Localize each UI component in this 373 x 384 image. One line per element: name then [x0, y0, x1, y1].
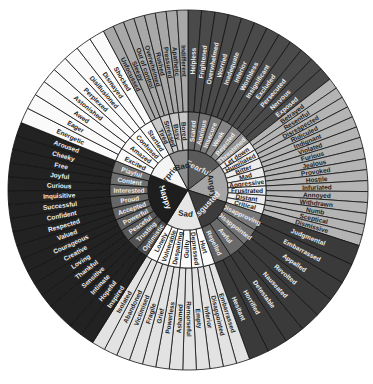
- core-sad-label: Sad: [178, 209, 194, 219]
- outer-infuriated-label: Infuriated: [302, 183, 332, 191]
- outer-indifferent-label: Indifferent: [180, 45, 188, 78]
- feelings-wheel: HelplessFrightenedOverwhelmedWorriedInad…: [0, 0, 373, 384]
- outer-remorseful-label: Remorseful: [185, 301, 192, 337]
- core-ring: FearfulAngryDisgustedSadHappySurprisedBa…: [148, 150, 228, 230]
- middle-interested-label: Interested: [113, 187, 144, 194]
- outer-curious-label: Curious: [47, 182, 72, 190]
- middle-bored-label: Bored: [180, 122, 188, 141]
